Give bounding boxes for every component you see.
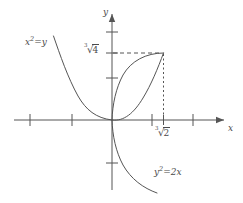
cube-root-symbol: 3√4 [84,44,99,55]
cube-root-symbol: 3√2 [155,127,170,138]
curve-label-y-squared-equals-2x: y2=2x [154,166,182,177]
y-axis-label: y [103,8,108,17]
x-value-label-cbrt2: 3√2 [155,127,170,138]
curve-y-squared-equals-2x-upper [112,53,164,120]
curve-y-squared-equals-2x-lower [112,120,157,193]
y-value-label-cbrt4: 3√4 [84,44,99,55]
graph-canvas [0,0,243,203]
radicand: 2 [163,127,170,138]
y-axis-arrowhead [109,14,115,22]
math-figure: y x x2=y y2=2x 3√4 3√2 [0,0,243,203]
x-axis-label: x [228,124,233,133]
curve-label-rest: =y [34,37,47,47]
x-axis-arrowhead [216,117,224,123]
radical-index: 3 [84,43,88,49]
curve-label-rest: =2x [163,167,181,177]
curve-label-x-squared-equals-y: x2=y [25,36,47,47]
radical-index: 3 [155,126,159,132]
radicand: 4 [92,44,99,55]
